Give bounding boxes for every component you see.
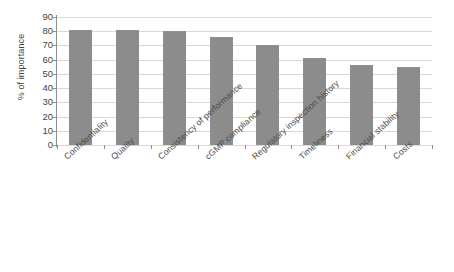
y-axis-title: % of importance [16, 17, 26, 117]
y-tick-label: 0 [31, 140, 53, 149]
x-tick-mark [151, 145, 152, 149]
x-tick-mark [291, 145, 292, 149]
gridline [57, 31, 432, 32]
bar-chart: % of importance 0102030405060708090 Conf… [0, 0, 454, 272]
x-tick-mark [432, 145, 433, 149]
y-tick-mark [53, 74, 57, 75]
gridline [57, 102, 432, 103]
y-tick-label: 10 [31, 126, 53, 135]
y-tick-label: 30 [31, 97, 53, 106]
y-tick-mark [53, 60, 57, 61]
y-tick-mark [53, 17, 57, 18]
y-tick-label: 80 [31, 26, 53, 35]
y-tick-mark [53, 45, 57, 46]
gridline [57, 74, 432, 75]
y-tick-mark [53, 88, 57, 89]
bar [163, 31, 186, 145]
y-tick-label: 70 [31, 40, 53, 49]
y-tick-mark [53, 31, 57, 32]
y-tick-mark [53, 102, 57, 103]
bar [397, 67, 420, 145]
y-tick-mark [53, 131, 57, 132]
x-tick-mark [338, 145, 339, 149]
gridline [57, 60, 432, 61]
y-tick-label: 90 [31, 12, 53, 21]
bar [69, 30, 92, 145]
gridline [57, 88, 432, 89]
bar [116, 30, 139, 145]
x-tick-mark [104, 145, 105, 149]
gridline [57, 45, 432, 46]
x-tick-mark [385, 145, 386, 149]
y-axis-tick-labels: 0102030405060708090 [29, 17, 53, 145]
y-tick-label: 60 [31, 55, 53, 64]
y-tick-label: 50 [31, 69, 53, 78]
y-tick-label: 20 [31, 112, 53, 121]
x-tick-mark [198, 145, 199, 149]
x-tick-mark [245, 145, 246, 149]
x-tick-mark [57, 145, 58, 149]
gridline [57, 17, 432, 18]
y-tick-label: 40 [31, 83, 53, 92]
y-tick-mark [53, 117, 57, 118]
